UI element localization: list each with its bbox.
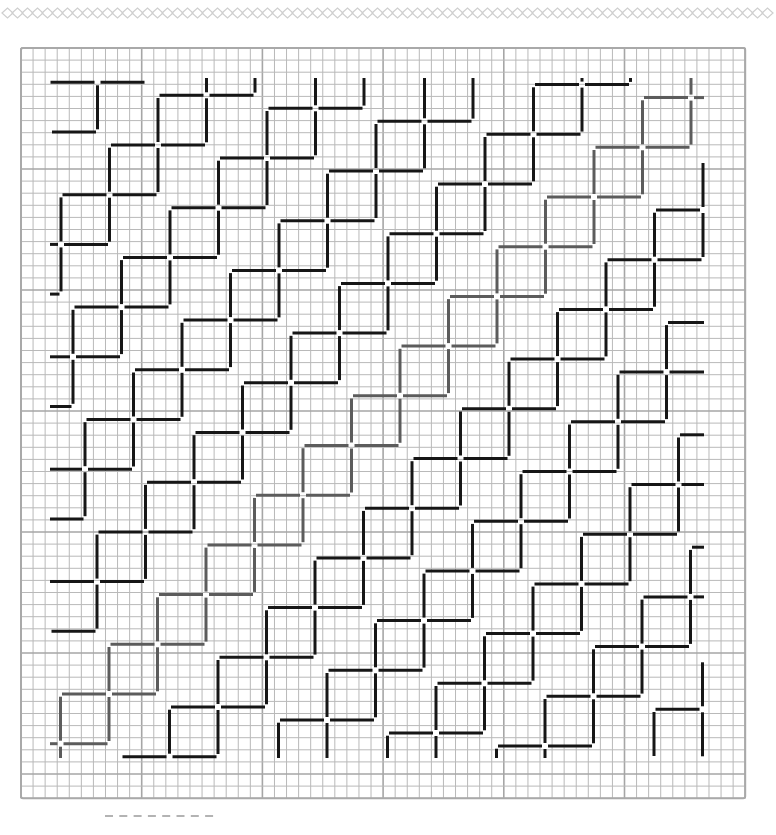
stitch-pattern-chart xyxy=(0,0,776,835)
stitch-pattern xyxy=(50,78,704,758)
footer-dashed-line xyxy=(0,800,776,830)
